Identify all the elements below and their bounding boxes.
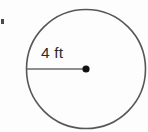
edge-speck-artifact bbox=[1, 19, 4, 24]
center-dot bbox=[82, 65, 89, 72]
diagram-canvas bbox=[0, 0, 148, 132]
radius-measurement-label: 4 ft bbox=[41, 43, 63, 62]
circle-diagram-figure: 4 ft bbox=[0, 0, 148, 132]
